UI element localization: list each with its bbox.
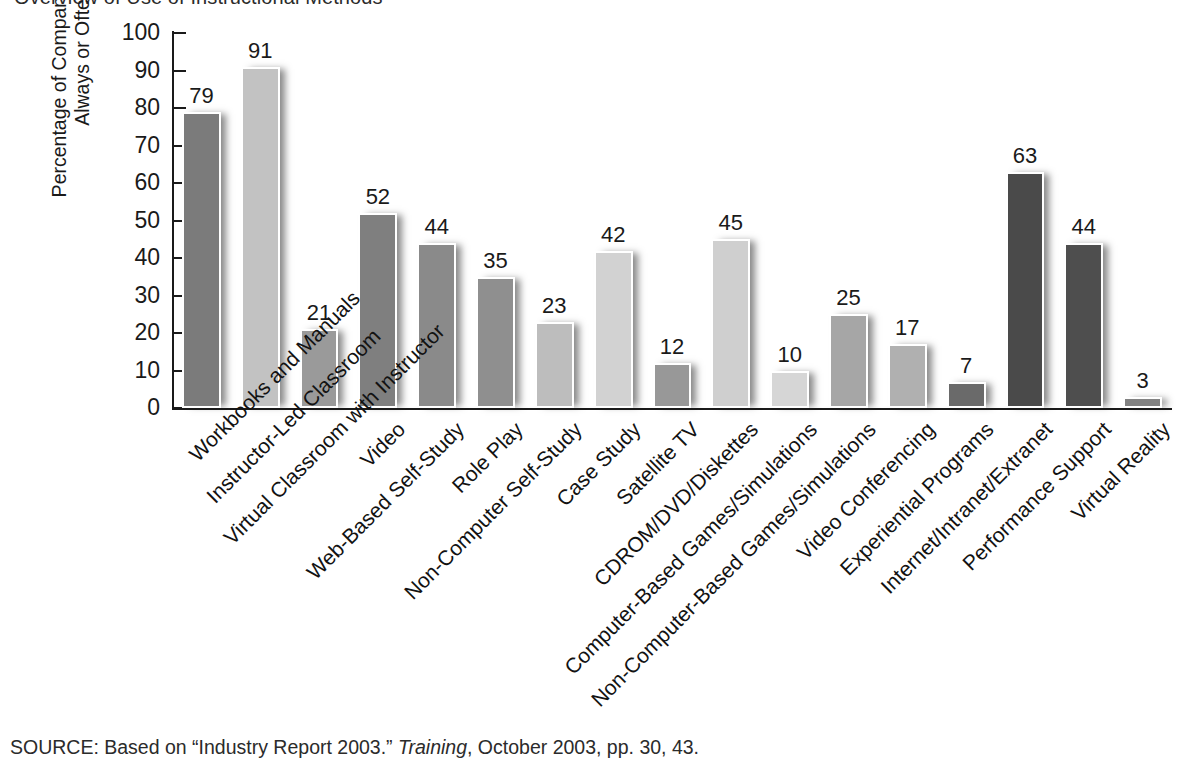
y-axis-tick-label: 60 bbox=[102, 171, 160, 194]
bar-value-label: 44 bbox=[424, 216, 448, 238]
x-axis-category-labels: Workbooks and ManualsInstructor-Led Clas… bbox=[172, 412, 1174, 702]
source-suffix: , October 2003, pp. 30, 43. bbox=[467, 736, 699, 758]
bar[interactable] bbox=[711, 239, 750, 408]
y-axis-tick-label: 0 bbox=[102, 396, 160, 419]
bar-group: 91 bbox=[241, 33, 280, 408]
x-axis-category-label: Workbooks and Manuals bbox=[185, 418, 232, 465]
figure-container: Overview of Use of Instructional Methods… bbox=[0, 0, 1184, 773]
y-axis-tick-label: 50 bbox=[102, 209, 160, 232]
bar-value-label: 52 bbox=[366, 186, 390, 208]
bar[interactable] bbox=[888, 344, 927, 408]
bar-group: 12 bbox=[653, 33, 692, 408]
bar-value-label: 79 bbox=[189, 85, 213, 107]
bar-group: 23 bbox=[535, 33, 574, 408]
y-axis-tick-label: 100 bbox=[102, 21, 160, 44]
bar-value-label: 42 bbox=[601, 224, 625, 246]
y-axis-tick-label: 80 bbox=[102, 96, 160, 119]
bar-value-label: 7 bbox=[960, 355, 972, 377]
y-axis-tick-label: 40 bbox=[102, 246, 160, 269]
bar[interactable] bbox=[1064, 243, 1103, 408]
bars-layer: 79912152443523421245102517763443 bbox=[172, 33, 1174, 408]
bar-group: 3 bbox=[1123, 33, 1162, 408]
source-prefix: SOURCE: Based on “Industry Report 2003.” bbox=[10, 736, 398, 758]
bar-group: 35 bbox=[476, 33, 515, 408]
bar-group: 79 bbox=[182, 33, 221, 408]
y-axis-tick-label: 70 bbox=[102, 134, 160, 157]
bar[interactable] bbox=[770, 371, 809, 409]
bar-value-label: 12 bbox=[660, 336, 684, 358]
bar-value-label: 45 bbox=[719, 212, 743, 234]
bar[interactable] bbox=[476, 277, 515, 408]
bar[interactable] bbox=[1123, 397, 1162, 408]
x-axis-category-label-text: Video bbox=[356, 418, 409, 471]
bar-value-label: 10 bbox=[777, 344, 801, 366]
source-italic-title: Training bbox=[398, 736, 467, 758]
bar-value-label: 63 bbox=[1013, 145, 1037, 167]
bar-value-label: 3 bbox=[1136, 370, 1148, 392]
bar[interactable] bbox=[829, 314, 868, 408]
y-axis-tick-labels: 1009080706050403020100 bbox=[42, 0, 160, 420]
bar[interactable] bbox=[241, 67, 280, 408]
bar-group: 7 bbox=[947, 33, 986, 408]
bar-group: 17 bbox=[888, 33, 927, 408]
bar-group: 45 bbox=[711, 33, 750, 408]
bar-group: 63 bbox=[1006, 33, 1045, 408]
y-axis-tick-label: 20 bbox=[102, 321, 160, 344]
bar-group: 42 bbox=[594, 33, 633, 408]
bar[interactable] bbox=[535, 322, 574, 408]
bar-group: 10 bbox=[770, 33, 809, 408]
bar-value-label: 44 bbox=[1072, 216, 1096, 238]
bar[interactable] bbox=[594, 251, 633, 409]
bar-value-label: 35 bbox=[483, 250, 507, 272]
x-axis-line bbox=[172, 408, 1172, 410]
y-axis-tick-label: 30 bbox=[102, 284, 160, 307]
bar[interactable] bbox=[947, 382, 986, 408]
bar-group: 44 bbox=[1064, 33, 1103, 408]
bar[interactable] bbox=[1006, 172, 1045, 408]
bar-value-label: 91 bbox=[248, 40, 272, 62]
y-axis-tick-label: 90 bbox=[102, 59, 160, 82]
bar-value-label: 17 bbox=[895, 317, 919, 339]
bar[interactable] bbox=[182, 112, 221, 408]
bar-value-label: 23 bbox=[542, 295, 566, 317]
source-note: SOURCE: Based on “Industry Report 2003.”… bbox=[10, 736, 699, 759]
bar[interactable] bbox=[653, 363, 692, 408]
y-axis-tick-label: 10 bbox=[102, 359, 160, 382]
bar-group: 25 bbox=[829, 33, 868, 408]
bar-value-label: 25 bbox=[836, 287, 860, 309]
